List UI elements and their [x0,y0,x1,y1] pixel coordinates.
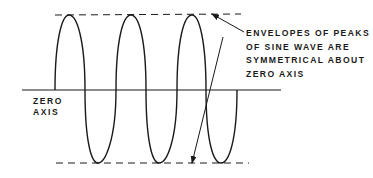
pointer-arrow-bottom [192,37,223,163]
annotation-line-3: SYMMETRICAL ABOUT [246,54,370,68]
zero-axis-label-line-2: AXIS [33,107,63,118]
zero-axis-label-line-1: ZERO [33,96,63,107]
annotation-line-2: OF SINE WAVE ARE [246,41,370,55]
pointer-arrow-top [212,14,244,32]
zero-axis-label: ZERO AXIS [33,96,63,118]
envelope-annotation: ENVELOPES OF PEAKS OF SINE WAVE ARE SYMM… [246,27,370,81]
annotation-line-4: ZERO AXIS [246,68,370,82]
annotation-line-1: ENVELOPES OF PEAKS [246,27,370,41]
